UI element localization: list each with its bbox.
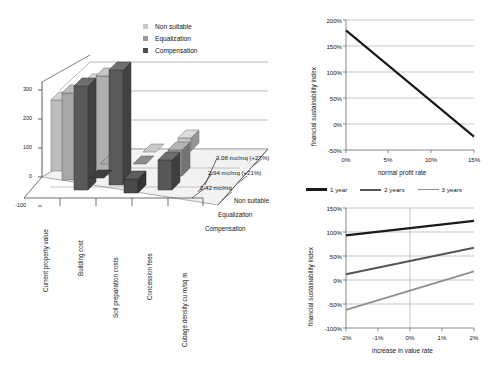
profit-rate-yaxis-title: financial sustainability index: [310, 67, 317, 146]
value-rate-ytick-neg100: -100%: [309, 325, 342, 332]
profit-rate-xtick-15: 15%: [465, 156, 483, 163]
bar3d-annotation-294: 2.94 mc/mq (+21%): [208, 169, 261, 176]
value-rate-ytick-150: 150%: [312, 205, 342, 212]
profit-rate-y-ticks: [343, 20, 346, 150]
bar3d-ytick-300: 300: [14, 86, 32, 92]
profit-rate-gridlines: [346, 20, 474, 124]
bar3d-zlabel-equalization: Equalization: [218, 211, 252, 218]
bar-compensation-building-cost: [109, 62, 131, 185]
profit-rate-xaxis-title: normal profit rate: [378, 169, 426, 176]
value-rate-xtick-0: 0%: [402, 334, 418, 341]
figure-canvas: Non suitable Equalization Compensation: [0, 0, 489, 369]
bar-compensation-cubage-density: [158, 152, 180, 190]
value-rate-xaxis-title: increase in value rate: [372, 347, 433, 354]
profit-rate-ytick-neg50: -50%: [316, 147, 342, 154]
value-rate-yaxis-title: financial sustainability index: [307, 247, 314, 326]
value-rate-ytick-50: 50%: [312, 253, 342, 260]
value-rate-xtick-neg1: -1%: [370, 334, 386, 341]
value-rate-ytick-0: 0%: [312, 277, 342, 284]
value-rate-y-ticks: [343, 208, 346, 328]
profit-rate-ytick-0: 0%: [316, 121, 342, 128]
profit-rate-chart: 200% 150% 100% 50% 0% -50% 0% 5% 10% 15%…: [300, 4, 486, 184]
bar3d-xlabel-cubage-density: Cubage density cu m/sq m: [181, 272, 188, 347]
bar3d-chart: Non suitable Equalization Compensation: [0, 0, 300, 369]
value-rate-x-ticks: [346, 328, 474, 331]
bar3d-annotation-308: 3.08 mc/mq (+27%): [216, 154, 269, 161]
bar3d-y-ticks: [38, 90, 42, 206]
profit-rate-ytick-200: 200%: [316, 17, 342, 24]
bar3d-zlabel-compensation: Compensation: [205, 225, 246, 232]
profit-rate-xtick-5: 5%: [380, 156, 396, 163]
bar3d-xlabel-current-property-value: Current property value: [42, 229, 49, 292]
value-rate-ytick-neg50: -50%: [312, 301, 342, 308]
bar3d-xlabel-building-cost: Building cost: [77, 240, 84, 276]
profit-rate-ytick-50: 50%: [316, 95, 342, 102]
value-rate-xtick-neg2: -2%: [338, 334, 354, 341]
bar3d-ytick-200: 200: [14, 115, 32, 121]
bar3d-ytick-0: 0: [14, 173, 32, 179]
bar3d-zlabel-non-suitable: Non suitable: [234, 197, 269, 204]
bar3d-xlabel-soil-preparation-costs: Soil preparation costs: [112, 257, 119, 318]
value-rate-plot: [300, 186, 486, 366]
profit-rate-ytick-100: 100%: [316, 69, 342, 76]
value-rate-chart: 1 year 2 years 3 years: [300, 186, 486, 366]
profit-rate-xtick-10: 10%: [422, 156, 440, 163]
bar3d-ytick-100: 100: [14, 144, 32, 150]
bar3d-xlabel-concession-fees: Concession fees: [146, 253, 153, 300]
value-rate-xtick-1: 1%: [434, 334, 450, 341]
value-rate-xtick-2: 2%: [466, 334, 482, 341]
bar-compensation-current-property-value: [74, 78, 96, 190]
value-rate-ytick-100: 100%: [312, 229, 342, 236]
profit-rate-ytick-150: 150%: [316, 43, 342, 50]
bar3d-origin-leader: [24, 177, 42, 198]
profit-rate-xtick-0: 0%: [338, 156, 354, 163]
bar3d-annotation-242: 2.42 mc/mq: [200, 184, 232, 191]
bar-group-compensation: [74, 62, 180, 193]
bar3d-scene: [0, 0, 300, 369]
bar3d-ytick-neg100: -100: [8, 202, 26, 208]
